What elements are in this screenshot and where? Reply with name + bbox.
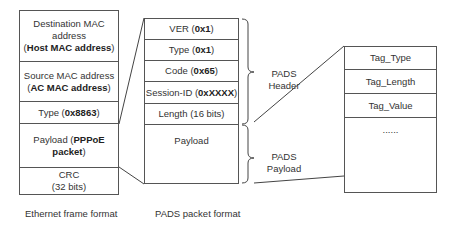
connector-lines — [0, 0, 456, 231]
